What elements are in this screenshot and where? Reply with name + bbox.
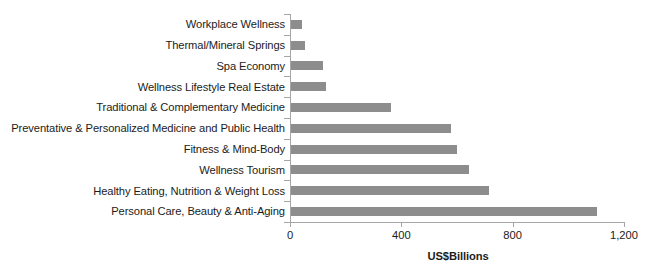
y-axis-tick [284,118,290,119]
category-row: Wellness Tourism [0,160,291,181]
x-axis-tick-label: 0 [287,229,293,241]
category-row: Fitness & Mind-Body [0,139,291,160]
bar-row [291,35,652,56]
bar [291,186,489,195]
x-axis-tick [513,222,514,227]
category-row: Healthy Eating, Nutrition & Weight Loss [0,180,291,201]
bars-container [291,14,652,222]
category-label: Personal Care, Beauty & Anti-Aging [111,205,285,217]
category-label: Fitness & Mind-Body [184,143,285,155]
x-axis-ticks [290,222,625,227]
y-axis-tick [284,160,290,161]
bar-row [291,76,652,97]
bar [291,207,597,216]
bar-row [291,180,652,201]
y-axis-ticks [284,14,290,222]
y-axis-tick [284,14,290,15]
bar [291,82,326,91]
x-axis-tick-label: 400 [392,229,411,241]
y-axis-tick [284,139,290,140]
bar [291,124,451,133]
category-row: Preventative & Personalized Medicine and… [0,118,291,139]
bar-row [291,14,652,35]
category-label: Thermal/Mineral Springs [165,39,285,51]
bar [291,61,323,70]
y-axis-tick [284,56,290,57]
plot-area: Workplace Wellness Thermal/Mineral Sprin… [0,0,652,274]
category-label: Preventative & Personalized Medicine and… [11,122,285,134]
category-label: Wellness Tourism [199,164,285,176]
bar-row [291,201,652,222]
category-row: Wellness Lifestyle Real Estate [0,76,291,97]
y-axis-tick [284,35,290,36]
y-axis-tick [284,180,290,181]
y-axis-tick [284,76,290,77]
category-label: Healthy Eating, Nutrition & Weight Loss [93,185,285,197]
x-axis-tick-label: 800 [503,229,522,241]
x-axis-tick [624,222,625,227]
category-row: Spa Economy [0,56,291,77]
bar-row [291,118,652,139]
bar-row [291,56,652,77]
bar-row [291,97,652,118]
category-row: Personal Care, Beauty & Anti-Aging [0,201,291,222]
category-row: Thermal/Mineral Springs [0,35,291,56]
category-label: Spa Economy [216,60,285,72]
bar [291,165,469,174]
bar [291,103,391,112]
category-row: Traditional & Complementary Medicine [0,97,291,118]
category-row: Workplace Wellness [0,14,291,35]
category-axis-labels: Workplace Wellness Thermal/Mineral Sprin… [0,14,291,222]
y-axis-tick [284,97,290,98]
x-axis-tick-label: 1,200 [610,229,638,241]
x-axis-tick [401,222,402,227]
bar-chart: Workplace Wellness Thermal/Mineral Sprin… [0,0,652,274]
bar-row [291,139,652,160]
category-label: Workplace Wellness [186,18,285,30]
bar [291,20,302,29]
category-label: Traditional & Complementary Medicine [96,101,285,113]
x-axis-tick [290,222,291,227]
bar [291,145,457,154]
bar-row [291,160,652,181]
bar [291,41,305,50]
y-axis-line [290,14,291,222]
x-axis-tick-labels: 04008001,200 [0,229,652,245]
x-axis-title: US$Billions [291,250,625,262]
category-label: Wellness Lifestyle Real Estate [138,81,285,93]
y-axis-tick [284,201,290,202]
